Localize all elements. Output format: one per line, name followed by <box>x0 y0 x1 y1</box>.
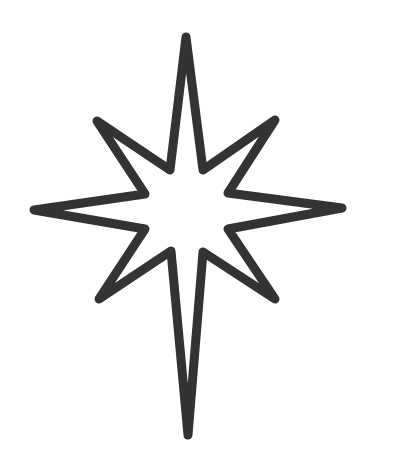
star-canvas <box>0 0 393 475</box>
star-outline <box>34 37 342 435</box>
star-icon <box>0 0 393 475</box>
